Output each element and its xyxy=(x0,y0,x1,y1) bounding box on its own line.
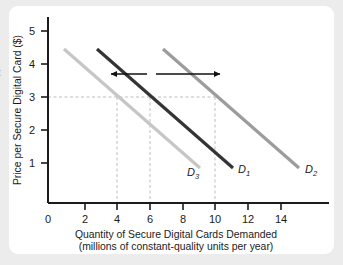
demand-curve-D3 xyxy=(64,49,200,168)
curve-label-D2: D2 xyxy=(305,163,318,178)
curve-label-D1: D1 xyxy=(238,163,250,178)
y-tick-label-3: 3 xyxy=(29,91,35,103)
y-tick-label-4: 4 xyxy=(29,58,35,70)
axes-group xyxy=(41,17,329,210)
x-tick-label-14: 14 xyxy=(275,213,287,225)
reference-lines-group xyxy=(48,97,215,203)
x-axis-title-line1: Quantity of Secure Digital Cards Demande… xyxy=(75,229,277,240)
x-tick-label-8: 8 xyxy=(180,213,186,225)
figure-root: t xyxy=(0,0,343,265)
demand-curves-group xyxy=(64,49,299,168)
demand-curve-chart: 5 4 3 2 1 0 2 4 6 8 10 12 14 xyxy=(0,0,343,265)
x-tick-label-6: 6 xyxy=(147,213,153,225)
x-axis-title-line2: (millions of constant-quality units per … xyxy=(79,241,274,252)
x-tick-labels-group: 0 2 4 6 8 10 12 14 xyxy=(45,213,287,225)
x-tick-label-0: 0 xyxy=(45,213,51,225)
x-tick-label-12: 12 xyxy=(242,213,254,225)
y-tick-labels-group: 5 4 3 2 1 xyxy=(29,25,35,169)
demand-curve-D2 xyxy=(163,49,299,168)
x-tick-label-2: 2 xyxy=(82,213,88,225)
y-axis-title: Price per Secure Digital Card ($) xyxy=(12,35,23,185)
x-tick-label-4: 4 xyxy=(114,213,120,225)
y-tick-label-1: 1 xyxy=(29,157,35,169)
y-tick-label-2: 2 xyxy=(29,124,35,136)
x-tick-label-10: 10 xyxy=(209,213,221,225)
y-tick-label-5: 5 xyxy=(29,25,35,37)
